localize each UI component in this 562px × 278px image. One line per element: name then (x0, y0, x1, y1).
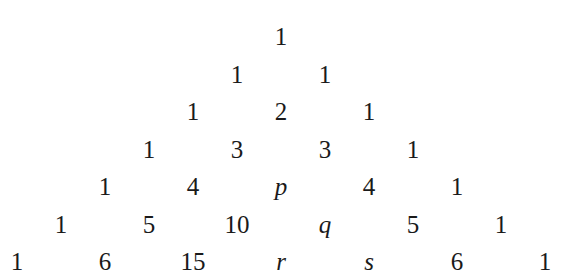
triangle-number: 1 (427, 172, 487, 202)
triangle-number: 3 (207, 135, 267, 165)
triangle-number: 5 (119, 210, 179, 240)
triangle-number: 15 (163, 247, 223, 277)
triangle-number: 1 (471, 210, 531, 240)
triangle-number: 1 (31, 210, 91, 240)
triangle-number: 4 (163, 172, 223, 202)
triangle-number: 1 (383, 135, 443, 165)
triangle-number: 6 (427, 247, 487, 277)
triangle-number: 4 (339, 172, 399, 202)
triangle-number: 1 (251, 22, 311, 52)
triangle-number: 5 (383, 210, 443, 240)
triangle-number: 1 (119, 135, 179, 165)
triangle-variable-p: p (251, 172, 311, 202)
pascal-triangle: 111121133114p411510q511615rs61 (0, 0, 562, 278)
triangle-variable-s: s (339, 247, 399, 277)
triangle-number: 1 (339, 97, 399, 127)
triangle-number: 3 (295, 135, 355, 165)
triangle-number: 1 (0, 247, 47, 277)
triangle-number: 1 (75, 172, 135, 202)
triangle-number: 1 (207, 60, 267, 90)
triangle-number: 6 (75, 247, 135, 277)
triangle-number: 1 (295, 60, 355, 90)
triangle-number: 2 (251, 97, 311, 127)
triangle-number: 1 (163, 97, 223, 127)
triangle-number: 1 (515, 247, 562, 277)
triangle-variable-q: q (295, 210, 355, 240)
triangle-number: 10 (207, 210, 267, 240)
triangle-variable-r: r (251, 247, 311, 277)
